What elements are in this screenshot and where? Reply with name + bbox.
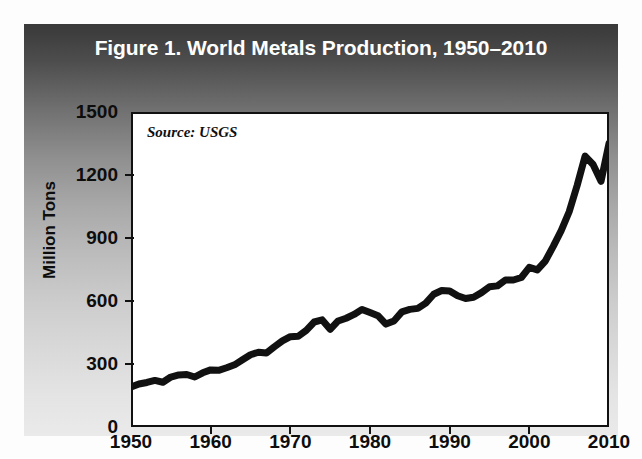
figure-root: Figure 1. World Metals Production, 1950–… (0, 0, 642, 459)
x-tick-mark (210, 425, 212, 434)
y-tick-label: 1500 (66, 102, 118, 121)
x-tick-label: 1950 (99, 432, 163, 451)
y-tick-label: 300 (66, 354, 118, 373)
x-tick-label: 2010 (577, 432, 641, 451)
y-tick-mark (125, 363, 134, 365)
x-tick-mark (449, 425, 451, 434)
plot-area: Source: USGS (131, 112, 609, 427)
x-tick-label: 1980 (338, 432, 402, 451)
x-tick-label: 1960 (179, 432, 243, 451)
x-tick-mark (289, 425, 291, 434)
x-tick-mark (528, 425, 530, 434)
y-tick-mark (125, 300, 134, 302)
data-line-world-metals-production (133, 144, 607, 388)
x-tick-label: 1990 (418, 432, 482, 451)
y-tick-label: 900 (66, 228, 118, 247)
line-chart-svg (133, 114, 607, 425)
x-tick-mark (369, 425, 371, 434)
y-tick-mark (125, 237, 134, 239)
y-tick-label: 600 (66, 291, 118, 310)
x-tick-label: 1970 (258, 432, 322, 451)
figure-panel: Figure 1. World Metals Production, 1950–… (24, 24, 618, 436)
y-axis-title: Million Tons (40, 140, 60, 320)
y-axis: Million Tons 030060090012001500 (24, 24, 118, 436)
y-tick-label: 1200 (66, 165, 118, 184)
x-tick-label: 2000 (497, 432, 561, 451)
y-tick-mark (125, 174, 134, 176)
